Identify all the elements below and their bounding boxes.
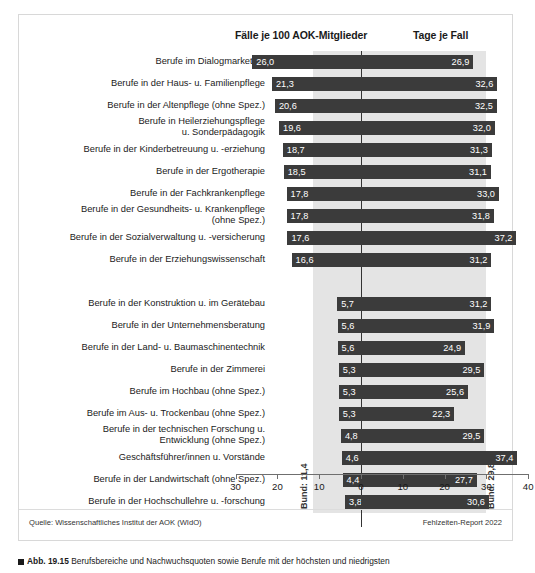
row-label: Berufe in der technischen Forschung u. E… — [19, 424, 265, 445]
cases-value: 17,8 — [291, 209, 309, 223]
days-value: 31,3 — [466, 143, 488, 157]
axis-tick — [277, 474, 278, 479]
cases-value: 5,6 — [342, 341, 355, 355]
axis-tick-label: 40 — [523, 481, 534, 492]
cases-value: 5,3 — [343, 385, 356, 399]
cases-value: 4,8 — [345, 429, 358, 443]
cases-value: 17,6 — [291, 231, 309, 245]
x-axis: 302010010203040 — [19, 474, 514, 496]
row-label: Berufe in der Fachkrankenpflege — [19, 188, 265, 199]
axis-tick — [486, 474, 487, 479]
days-value: 37,4 — [491, 451, 513, 465]
days-value: 25,6 — [442, 385, 464, 399]
chart-row: Berufe in der technischen Forschung u. E… — [19, 425, 514, 447]
header-cases-title: Fälle je 100 AOK-Mitglieder — [235, 29, 367, 41]
days-value: 29,5 — [458, 363, 480, 377]
axis-tick-label: 30 — [230, 481, 241, 492]
row-label: Berufe in der Sozialverwaltung u. -versi… — [19, 232, 265, 243]
row-label: Berufe in der Altenpflege (ohne Spez.) — [19, 100, 265, 111]
chart-row: Berufe in der Zimmerei5,329,5 — [19, 359, 514, 381]
caption-bullet-icon — [18, 559, 24, 565]
chart-row: Berufe im Aus- u. Trockenbau (ohne Spez.… — [19, 403, 514, 425]
cases-value: 5,6 — [342, 319, 355, 333]
days-value: 30,6 — [463, 495, 485, 509]
row-label: Berufe im Hochbau (ohne Spez.) — [19, 386, 265, 397]
header-days-title: Tage je Fall — [413, 29, 468, 41]
chart-row: Berufe in der Sozialverwaltung u. -versi… — [19, 227, 514, 249]
days-value: 31,9 — [468, 319, 490, 333]
cases-value: 20,6 — [279, 99, 297, 113]
row-label: Berufe in Heilerziehungspflege u. Sonder… — [19, 116, 265, 137]
cases-value: 4,6 — [346, 451, 359, 465]
row-label: Berufe in der Gesundheits- u. Krankenpfl… — [19, 204, 265, 225]
cases-value: 18,5 — [288, 165, 306, 179]
caption-number: Abb. 19.15 — [27, 556, 69, 566]
cases-value: 26,0 — [256, 55, 274, 69]
chart-row: Berufe in Heilerziehungspflege u. Sonder… — [19, 117, 514, 139]
axis-tick-label: 0 — [358, 481, 363, 492]
axis-tick-label: 10 — [397, 481, 408, 492]
chart-row: Berufe in der Haus- u. Familienpflege21,… — [19, 73, 514, 95]
axis-tick-label: 20 — [272, 481, 283, 492]
days-value: 37,2 — [490, 231, 512, 245]
axis-tick — [319, 474, 320, 479]
chart-row: Berufe in der Kinderbetreuung u. -erzieh… — [19, 139, 514, 161]
days-value: 31,2 — [465, 297, 487, 311]
chart-row: Geschäftsführer/innen u. Vorstände4,637,… — [19, 447, 514, 469]
days-value: 24,9 — [439, 341, 461, 355]
row-label: Berufe in der Erziehungswissenschaft — [19, 254, 265, 265]
chart-row: Berufe im Dialogmarketing26,026,9 — [19, 51, 514, 73]
row-label: Berufe im Aus- u. Trockenbau (ohne Spez.… — [19, 408, 265, 419]
row-label: Berufe in der Land- u. Baumaschinentechn… — [19, 342, 265, 353]
chart-row: Berufe in der Konstruktion u. im Geräteb… — [19, 293, 514, 315]
chart-header: Fälle je 100 AOK-Mitglieder Tage je Fall — [19, 29, 512, 45]
days-value: 32,6 — [471, 77, 493, 91]
cases-value: 18,7 — [287, 143, 305, 157]
row-label: Berufe in der Ergotherapie — [19, 166, 265, 177]
row-label: Geschäftsführer/innen u. Vorstände — [19, 452, 265, 463]
chart-footer: Quelle: Wissenschaftliches Institut der … — [19, 509, 512, 540]
axis-tick — [236, 474, 237, 479]
days-value: 29,5 — [458, 429, 480, 443]
axis-tick-label: 20 — [439, 481, 450, 492]
days-value: 22,3 — [428, 407, 450, 421]
days-value: 31,2 — [465, 253, 487, 267]
chart-row: Berufe im Hochbau (ohne Spez.)5,325,6 — [19, 381, 514, 403]
row-label: Berufe in der Kinderbetreuung u. -erzieh… — [19, 144, 265, 155]
chart-row: Berufe in der Unternehmensberatung5,631,… — [19, 315, 514, 337]
days-value: 32,5 — [471, 99, 493, 113]
source-note: Quelle: Wissenschaftliches Institut der … — [29, 518, 202, 527]
axis-tick — [528, 474, 529, 479]
days-value: 33,0 — [473, 187, 495, 201]
axis-tick-label: 30 — [481, 481, 492, 492]
figure-caption: Abb. 19.15 Berufsbereiche und Nachwuchsq… — [18, 556, 518, 566]
row-label: Berufe in der Konstruktion u. im Geräteb… — [19, 298, 265, 309]
chart-row: Berufe in der Gesundheits- u. Krankenpfl… — [19, 205, 514, 227]
days-value: 26,9 — [447, 55, 469, 69]
chart-row: Berufe in der Erziehungswissenschaft16,6… — [19, 249, 514, 271]
chart-row: Berufe in der Land- u. Baumaschinentechn… — [19, 337, 514, 359]
cases-value: 3,8 — [349, 495, 362, 509]
row-label: Berufe im Dialogmarketing — [19, 56, 265, 67]
chart-row: Berufe in der Ergotherapie18,531,1 — [19, 161, 514, 183]
days-value: 31,1 — [465, 165, 487, 179]
row-label: Berufe in der Unternehmensberatung — [19, 320, 265, 331]
cases-value: 5,3 — [343, 363, 356, 377]
row-label: Berufe in der Zimmerei — [19, 364, 265, 375]
cases-value: 5,7 — [341, 297, 354, 311]
plot-area: Bund: 11,4Bund: 29,8Berufe im Dialogmark… — [19, 51, 514, 513]
cases-value: 5,3 — [343, 407, 356, 421]
cases-value: 17,8 — [291, 187, 309, 201]
axis-tick — [403, 474, 404, 479]
chart-row: Berufe in der Fachkrankenpflege17,833,0 — [19, 183, 514, 205]
row-label: Berufe in der Hochschullehre u. -forschu… — [19, 496, 265, 507]
cases-value: 16,6 — [296, 253, 314, 267]
axis-tick — [445, 474, 446, 479]
days-value: 32,0 — [469, 121, 491, 135]
days-value: 31,8 — [468, 209, 490, 223]
row-label: Berufe in der Haus- u. Familienpflege — [19, 78, 265, 89]
figure-panel: Fälle je 100 AOK-Mitglieder Tage je Fall… — [18, 14, 513, 541]
axis-tick — [361, 474, 362, 479]
chart-row: Berufe in der Altenpflege (ohne Spez.)20… — [19, 95, 514, 117]
axis-line — [236, 474, 529, 475]
